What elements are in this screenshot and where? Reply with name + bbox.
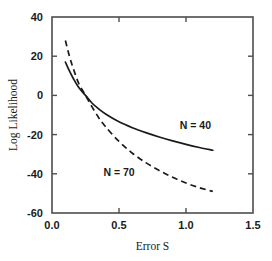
y-tick-label: 0 [37, 89, 43, 101]
y-tick-label: -60 [27, 207, 43, 219]
x-axis-title: Error S [136, 240, 170, 252]
x-tick-label: 0.5 [111, 219, 126, 231]
x-tick-label: 0.0 [44, 219, 59, 231]
y-axis-tick-labels: 40200-20-40-60 [27, 11, 43, 219]
series-curve-dashed [65, 41, 212, 192]
y-tick-label: -40 [27, 168, 43, 180]
x-tick-label: 1.0 [178, 219, 193, 231]
series-label: N = 40 [180, 119, 211, 131]
y-tick-label: -20 [27, 129, 43, 141]
chart-figure: 0.00.51.01.5 40200-20-40-60 N = 40N = 70… [0, 0, 272, 261]
data-series-group [65, 41, 212, 192]
log-likelihood-line-chart: 0.00.51.01.5 40200-20-40-60 N = 40N = 70… [0, 0, 272, 261]
series-curve-solid [65, 62, 212, 150]
y-tick-label: 40 [31, 11, 43, 23]
plot-frame [52, 17, 253, 213]
y-tick-label: 20 [31, 50, 43, 62]
x-tick-label: 1.5 [245, 219, 260, 231]
y-axis-title: Log Likelihood [7, 79, 20, 151]
axes-box [52, 17, 253, 213]
series-label: N = 70 [103, 166, 134, 178]
y-axis-ticks [52, 56, 253, 174]
x-axis-tick-labels: 0.00.51.01.5 [44, 219, 260, 231]
x-axis-ticks [119, 17, 186, 213]
